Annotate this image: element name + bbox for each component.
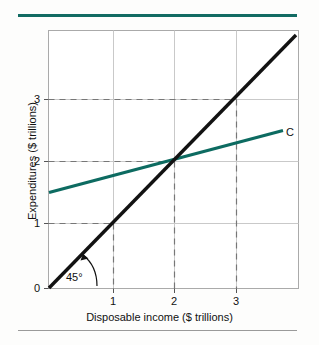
y-axis-title: Expenditures ($ trillions) <box>26 46 38 276</box>
ytick-label-0: 0 <box>26 283 40 294</box>
curve-label-c: C <box>286 126 294 138</box>
figure-container: 3 2 1 0 1 2 3 Disposable income ($ trill… <box>0 0 319 345</box>
xtick-label-3: 3 <box>229 296 243 307</box>
chart-plot <box>0 0 319 345</box>
xtick-label-2: 2 <box>167 296 181 307</box>
x-axis-title: Disposable income ($ trillions) <box>0 311 319 323</box>
xtick-label-1: 1 <box>106 296 120 307</box>
angle-annotation-label: 45° <box>66 271 83 283</box>
